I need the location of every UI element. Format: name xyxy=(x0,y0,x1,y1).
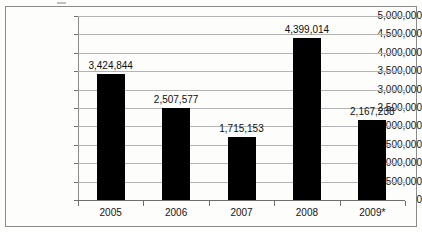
gridline xyxy=(78,90,405,91)
bar-value-label: 2,167,238 xyxy=(332,106,412,117)
bar-value-label: 1,715,153 xyxy=(202,123,282,134)
x-axis-tick-mark xyxy=(143,201,144,206)
x-axis-tick-mark xyxy=(340,201,341,206)
scan-artifact xyxy=(57,2,66,4)
gridline xyxy=(78,16,405,17)
bar xyxy=(228,137,256,200)
gridline xyxy=(78,200,405,201)
gridline xyxy=(78,71,405,72)
x-axis-category-label: 2009* xyxy=(340,207,404,218)
x-axis-category-label: 2005 xyxy=(79,207,143,218)
x-axis-tick-mark xyxy=(78,201,79,206)
bar-value-label: 2,507,577 xyxy=(136,94,216,105)
x-axis-category-label: 2006 xyxy=(144,207,208,218)
gridline xyxy=(78,53,405,54)
gridline xyxy=(78,34,405,35)
x-axis-category-label: 2007 xyxy=(210,207,274,218)
bar xyxy=(97,74,125,200)
x-axis-category-label: 2008 xyxy=(275,207,339,218)
x-axis-tick-mark xyxy=(274,201,275,206)
x-axis-tick-mark xyxy=(405,201,406,206)
x-axis-tick-mark xyxy=(209,201,210,206)
bar xyxy=(162,108,190,200)
bar xyxy=(293,38,321,200)
bar-value-label: 4,399,014 xyxy=(267,24,347,35)
bar-chart-figure: 0500,0001,000,0001,500,0002,000,0002,500… xyxy=(0,0,422,232)
bar xyxy=(358,120,386,200)
bar-value-label: 3,424,844 xyxy=(71,60,151,71)
